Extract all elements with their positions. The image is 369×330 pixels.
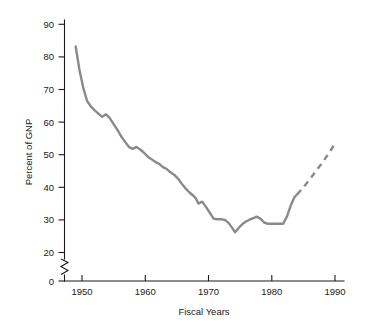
y-axis-title: Percent of GNP bbox=[23, 119, 34, 186]
y-axis-group bbox=[61, 20, 68, 281]
y-tick-label-30: 30 bbox=[43, 214, 54, 225]
y-tick-label-40: 40 bbox=[43, 182, 54, 193]
x-tick-label-1970: 1970 bbox=[198, 286, 219, 297]
x-tick-label-1950: 1950 bbox=[71, 286, 92, 297]
x-tick-marks bbox=[82, 275, 335, 281]
chart-plot-svg: 90 80 70 60 50 40 30 20 0 Percent of GNP… bbox=[0, 0, 369, 330]
x-tick-labels: 1950 1960 1970 1980 1990 bbox=[71, 286, 345, 297]
y-tick-label-20: 20 bbox=[43, 247, 54, 258]
x-tick-label-1980: 1980 bbox=[261, 286, 282, 297]
x-tick-label-1990: 1990 bbox=[324, 286, 345, 297]
x-tick-label-1960: 1960 bbox=[135, 286, 156, 297]
x-axis-title: Fiscal Years bbox=[178, 306, 229, 317]
y-tick-label-90: 90 bbox=[43, 19, 54, 30]
y-tick-label-60: 60 bbox=[43, 117, 54, 128]
data-series-line-projected bbox=[297, 146, 334, 195]
y-tick-label-70: 70 bbox=[43, 84, 54, 95]
data-series-line-actual bbox=[76, 46, 297, 232]
y-tick-labels: 90 80 70 60 50 40 30 20 0 bbox=[43, 19, 54, 287]
y-tick-label-80: 80 bbox=[43, 51, 54, 62]
y-tick-label-50: 50 bbox=[43, 149, 54, 160]
y-tick-label-0: 0 bbox=[49, 276, 54, 287]
y-tick-marks bbox=[59, 24, 65, 281]
y-axis-break-zigzag bbox=[61, 259, 68, 275]
chart-container: 90 80 70 60 50 40 30 20 0 Percent of GNP… bbox=[0, 0, 369, 330]
